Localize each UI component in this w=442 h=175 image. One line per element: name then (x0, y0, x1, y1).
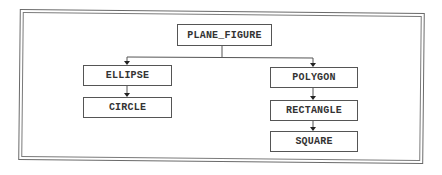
node-circle: CIRCLE (83, 97, 172, 118)
node-square-label: SQUARE (295, 136, 332, 147)
node-plane-figure: PLANE_FIGURE (177, 24, 272, 46)
node-ellipse-label: ELLIPSE (106, 70, 149, 81)
node-circle-label: CIRCLE (109, 102, 146, 113)
node-rectangle: RECTANGLE (270, 100, 358, 121)
edge-root-bus (127, 57, 313, 58)
node-plane-figure-label: PLANE_FIGURE (187, 30, 261, 41)
node-square: SQUARE (270, 131, 358, 152)
node-polygon: POLYGON (270, 67, 358, 88)
node-polygon-label: POLYGON (292, 72, 335, 83)
node-rectangle-label: RECTANGLE (286, 105, 342, 116)
node-ellipse: ELLIPSE (83, 65, 172, 86)
